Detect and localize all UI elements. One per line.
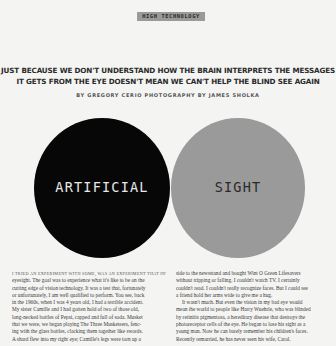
body-line: that we were, we began playing The Three… — [12, 321, 166, 328]
body-line: by retinitis pigmentosa, a hereditary di… — [176, 314, 330, 321]
headline-line-1: JUST BECAUSE WE DON'T UNDERSTAND HOW THE… — [0, 65, 336, 76]
body-column-right: side to the newsstand and bought Wint O … — [176, 270, 330, 343]
body-line: couldn't read. I couldn't really recogni… — [176, 285, 330, 292]
body-line: young man. Now he can barely remember hi… — [176, 328, 330, 335]
body-line: Recently remarried, he has never seen hi… — [176, 336, 330, 343]
artificial-label: ARTIFICIAL — [55, 179, 148, 195]
headline: JUST BECAUSE WE DON'T UNDERSTAND HOW THE… — [0, 65, 336, 87]
body-line: eyesight. The goal was to experience wha… — [12, 277, 166, 284]
lead-in: I TRIED AN EXPERIMENT WITH SOME, WAS AN … — [12, 270, 166, 277]
section-label: HIGH TECHNOLOGY — [137, 12, 205, 21]
body-line: My sister Camille and I had gotten hold … — [12, 306, 166, 313]
body-line: in the 1960s, when I was 4 years old, I … — [12, 299, 166, 306]
body-line: mean the world to people like Harry Wueh… — [176, 306, 330, 313]
headline-line-2: IT GETS FROM THE EYE DOESN'T MEAN WE CAN… — [0, 76, 336, 87]
body-line: It wasn't much. But even the vision in m… — [176, 299, 330, 306]
body-line: cutting edge of vision technology. It wa… — [12, 285, 166, 292]
artificial-circle: ARTIFICIAL — [34, 118, 170, 258]
body-line: side to the newsstand and bought Wint O … — [176, 270, 330, 277]
body-line: or unfortunately, I am well qualified to… — [12, 292, 166, 299]
body-line: without tripping or falling. I couldn't … — [176, 277, 330, 284]
body-line: a friend hold her arms wide to give me a… — [176, 292, 330, 299]
body-line: photoreceptor cells of the eye. He began… — [176, 321, 330, 328]
body-line: A shard flew into my right eye; Camille'… — [12, 336, 166, 343]
body-column-left: I TRIED AN EXPERIMENT WITH SOME, WAS AN … — [12, 270, 166, 343]
sight-circle: SIGHT — [171, 118, 305, 258]
sight-label: SIGHT — [215, 179, 262, 195]
body-line: ing with the glass bottles, clacking the… — [12, 328, 166, 335]
body-line: long-necked bottles of Pepsi, capped and… — [12, 314, 166, 321]
byline: BY GREGORY CERIO PHOTOGRAPHY BY JAMES SH… — [0, 92, 336, 98]
